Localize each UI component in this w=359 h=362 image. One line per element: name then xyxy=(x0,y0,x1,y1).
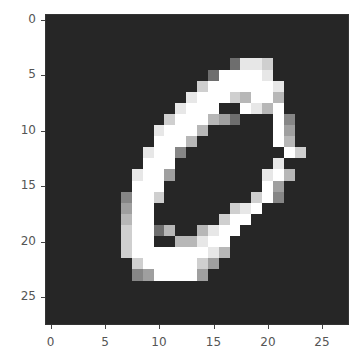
pixel xyxy=(67,158,78,169)
pixel xyxy=(219,169,230,180)
x-tick-mark xyxy=(214,325,215,329)
pixel xyxy=(327,92,338,103)
pixel xyxy=(240,281,251,292)
pixel xyxy=(132,103,143,114)
pixel xyxy=(295,169,306,180)
pixel xyxy=(164,314,175,325)
pixel xyxy=(240,47,251,58)
pixel xyxy=(45,181,56,192)
pixel xyxy=(284,125,295,136)
pixel xyxy=(197,14,208,25)
pixel xyxy=(338,247,349,258)
pixel xyxy=(295,58,306,69)
y-tick-label: 20 xyxy=(21,234,36,248)
pixel xyxy=(327,47,338,58)
pixel xyxy=(121,303,132,314)
pixel xyxy=(327,136,338,147)
pixel xyxy=(262,314,273,325)
pixel xyxy=(143,169,154,180)
pixel xyxy=(273,125,284,136)
pixel xyxy=(240,103,251,114)
pixel xyxy=(154,92,165,103)
pixel xyxy=(88,92,99,103)
pixel xyxy=(45,136,56,147)
pixel xyxy=(327,214,338,225)
pixel xyxy=(143,203,154,214)
pixel xyxy=(230,125,241,136)
pixel xyxy=(316,169,327,180)
pixel xyxy=(284,147,295,158)
pixel xyxy=(45,258,56,269)
pixel xyxy=(88,192,99,203)
pixel xyxy=(208,247,219,258)
pixel xyxy=(143,36,154,47)
pixel xyxy=(262,14,273,25)
pixel xyxy=(45,36,56,47)
y-tick-label: 5 xyxy=(28,67,36,81)
pixel xyxy=(197,169,208,180)
pixel xyxy=(284,58,295,69)
pixel xyxy=(262,292,273,303)
pixel xyxy=(295,81,306,92)
pixel xyxy=(56,47,67,58)
pixel xyxy=(327,114,338,125)
pixel xyxy=(306,192,317,203)
pixel xyxy=(110,192,121,203)
pixel xyxy=(45,114,56,125)
pixel xyxy=(154,292,165,303)
pixel xyxy=(295,103,306,114)
pixel xyxy=(110,70,121,81)
pixel xyxy=(295,247,306,258)
pixel xyxy=(121,314,132,325)
pixel xyxy=(154,314,165,325)
pixel xyxy=(262,158,273,169)
pixel xyxy=(186,125,197,136)
pixel xyxy=(175,114,186,125)
pixel xyxy=(316,292,327,303)
pixel xyxy=(99,147,110,158)
pixel xyxy=(143,25,154,36)
pixel xyxy=(78,158,89,169)
pixel xyxy=(175,169,186,180)
pixel xyxy=(251,136,262,147)
pixel xyxy=(45,58,56,69)
y-tick-mark xyxy=(41,297,45,298)
pixel xyxy=(273,203,284,214)
pixel xyxy=(154,47,165,58)
pixel xyxy=(197,25,208,36)
pixel xyxy=(219,281,230,292)
pixel xyxy=(316,258,327,269)
pixel xyxy=(110,292,121,303)
pixel xyxy=(164,114,175,125)
pixel xyxy=(88,114,99,125)
pixel xyxy=(67,203,78,214)
pixel xyxy=(338,269,349,280)
pixel xyxy=(240,92,251,103)
pixel xyxy=(338,36,349,47)
pixel xyxy=(186,103,197,114)
pixel xyxy=(219,303,230,314)
x-tick-label: 0 xyxy=(31,335,71,349)
pixel xyxy=(45,281,56,292)
pixel xyxy=(164,258,175,269)
pixel xyxy=(316,192,327,203)
pixel xyxy=(78,36,89,47)
pixel xyxy=(273,58,284,69)
pixel xyxy=(175,258,186,269)
pixel xyxy=(45,81,56,92)
pixel xyxy=(219,136,230,147)
pixel xyxy=(45,147,56,158)
pixel xyxy=(186,292,197,303)
pixel xyxy=(306,114,317,125)
pixel xyxy=(240,225,251,236)
pixel xyxy=(154,58,165,69)
pixel xyxy=(327,258,338,269)
pixel xyxy=(306,214,317,225)
pixel xyxy=(67,258,78,269)
pixel xyxy=(45,125,56,136)
pixel xyxy=(154,125,165,136)
pixel xyxy=(306,92,317,103)
pixel xyxy=(273,14,284,25)
pixel xyxy=(338,192,349,203)
pixel xyxy=(208,92,219,103)
